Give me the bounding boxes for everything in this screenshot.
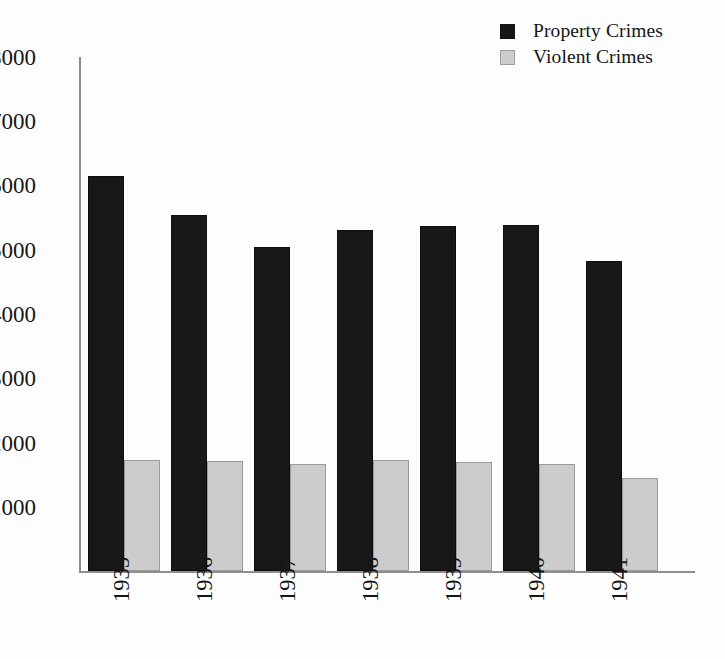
legend-label-property-crimes: Property Crimes [533,21,663,41]
y-tick-label: 1000 [0,496,36,519]
y-tick-label: 7000 [0,110,36,133]
x-axis-line [79,571,695,573]
bar-property-1938 [337,230,373,571]
x-tick-label: 1940 [526,582,549,602]
y-tick-label: 3000 [0,367,36,390]
x-tick-label: 1936 [194,582,217,602]
x-tick-label: 1941 [609,582,632,602]
bar-property-1941 [586,261,622,571]
bar-property-1935 [88,176,124,571]
bar-violent-1939 [456,462,492,571]
bar-violent-1938 [373,460,409,571]
legend-swatch-icon-property-crimes [500,24,515,39]
bar-property-1937 [254,247,290,571]
y-tick-label: 5000 [0,239,36,262]
x-tick-label: 1935 [111,582,134,602]
bar-violent-1940 [539,464,575,571]
x-tick-label: 1937 [277,582,300,602]
y-tick-label: 2000 [0,432,36,455]
bar-property-1936 [171,215,207,571]
y-axis-line [79,57,81,571]
x-tick-label: 1938 [360,582,383,602]
legend-item-property-crimes: Property Crimes [500,18,710,44]
plot-area: 8000 7000 6000 5000 4000 3000 2000 1000 … [79,57,695,571]
bar-property-1940 [503,225,539,571]
bar-violent-1935 [124,460,160,571]
bar-violent-1937 [290,464,326,571]
chart-page: Property Crimes Violent Crimes 8000 7000… [0,0,725,659]
y-tick-label: 4000 [0,303,36,326]
bar-property-1939 [420,226,456,571]
x-tick-label: 1939 [443,582,466,602]
bar-violent-1936 [207,461,243,572]
y-tick-label: 6000 [0,174,36,197]
y-tick-label: 8000 [0,46,36,69]
